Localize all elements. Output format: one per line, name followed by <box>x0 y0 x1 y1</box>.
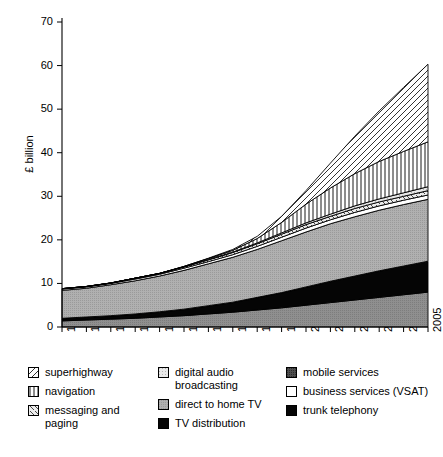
legend-swatch-icon <box>28 367 39 378</box>
legend-column: mobile servicesbusiness services (VSAT)t… <box>286 366 428 423</box>
legend-label: business services (VSAT) <box>303 385 428 398</box>
legend-item[interactable]: digital audio broadcasting <box>158 366 262 392</box>
legend-swatch-icon <box>28 386 39 397</box>
legend-item[interactable]: messaging and paging <box>28 404 137 430</box>
stacked-area-chart: £ billion 010203040506070 19901991199219… <box>0 0 443 457</box>
legend-item[interactable]: superhighway <box>28 366 137 379</box>
legend-label: mobile services <box>303 366 379 379</box>
legend-swatch-icon <box>158 367 169 378</box>
legend-label: direct to home TV <box>175 398 262 411</box>
legend-label: superhighway <box>45 366 113 379</box>
legend-swatch-icon <box>158 418 169 429</box>
legend-swatch-icon <box>286 386 297 397</box>
legend-swatch-icon <box>28 405 39 416</box>
legend-item[interactable]: trunk telephony <box>286 404 428 417</box>
legend-label: TV distribution <box>175 417 245 430</box>
legend-column: digital audio broadcastingdirect to home… <box>158 366 262 436</box>
legend-label: navigation <box>45 385 95 398</box>
legend-item[interactable]: business services (VSAT) <box>286 385 428 398</box>
legend-label: digital audio broadcasting <box>175 366 261 392</box>
legend-column: superhighwaynavigationmessaging and pagi… <box>28 366 137 436</box>
chart-legend: superhighwaynavigationmessaging and pagi… <box>28 366 438 452</box>
legend-item[interactable]: navigation <box>28 385 137 398</box>
legend-swatch-icon <box>286 405 297 416</box>
legend-item[interactable]: TV distribution <box>158 417 262 430</box>
legend-swatch-icon <box>158 399 169 410</box>
legend-label: messaging and paging <box>45 404 137 430</box>
legend-item[interactable]: direct to home TV <box>158 398 262 411</box>
legend-swatch-icon <box>286 367 297 378</box>
legend-item[interactable]: mobile services <box>286 366 428 379</box>
legend-label: trunk telephony <box>303 404 378 417</box>
